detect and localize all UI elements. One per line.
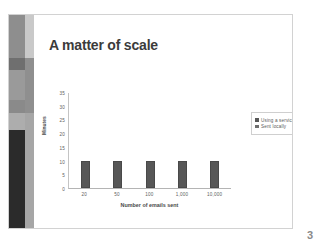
legend-swatch-icon xyxy=(255,118,259,122)
bar-slot xyxy=(134,93,166,188)
presentation-slide: A matter of scale Minutes 05101520253035… xyxy=(8,14,293,229)
band-segment xyxy=(9,130,25,228)
chart-legend: Using a serviceSent locally xyxy=(251,112,293,135)
legend-label: Sent locally xyxy=(261,124,286,129)
x-axis-tick-label: 1,000 xyxy=(166,192,199,197)
x-axis-tick-labels: 20501001,00010,000 xyxy=(68,192,231,197)
bar-slot xyxy=(199,93,231,188)
page-number: 3 xyxy=(307,229,313,241)
y-axis-tick-label: 30 xyxy=(59,104,65,109)
y-axis-tick-label: 20 xyxy=(59,132,65,137)
bar[interactable] xyxy=(178,161,187,188)
rail-segment xyxy=(25,113,34,228)
band-segment xyxy=(9,58,25,71)
legend-swatch-icon xyxy=(255,125,259,129)
decorative-left-band xyxy=(9,15,34,228)
bar[interactable] xyxy=(113,161,122,188)
legend-item[interactable]: Sent locally xyxy=(255,124,293,129)
y-axis-tick-labels: 05101520253035 xyxy=(49,93,65,189)
x-axis-title: Number of emails sent xyxy=(68,202,231,208)
bar[interactable] xyxy=(146,161,155,188)
bar-chart: Minutes 05101520253035 20501001,00010,00… xyxy=(41,93,286,221)
bar-slot xyxy=(166,93,198,188)
band-photo-strip xyxy=(9,15,25,228)
band-rail-strip xyxy=(25,15,34,228)
x-axis-tick-label: 20 xyxy=(68,192,101,197)
band-segment xyxy=(9,113,25,130)
x-axis-tick-label: 100 xyxy=(133,192,166,197)
y-axis-tick-label: 0 xyxy=(62,187,65,192)
plot-area-wrapper: Minutes 05101520253035 20501001,00010,00… xyxy=(41,93,231,205)
bar-group xyxy=(69,93,231,188)
bar[interactable] xyxy=(81,161,90,188)
bar[interactable] xyxy=(210,161,219,188)
y-axis-tick-label: 25 xyxy=(59,118,65,123)
x-axis-tick-label: 10,000 xyxy=(198,192,231,197)
bar-slot xyxy=(101,93,133,188)
bar-slot xyxy=(69,93,101,188)
legend-item[interactable]: Using a service xyxy=(255,118,293,123)
y-axis-tick-label: 5 xyxy=(62,173,65,178)
y-axis-tick-label: 10 xyxy=(59,159,65,164)
band-segment xyxy=(9,100,25,113)
band-segment xyxy=(9,15,25,58)
band-segment xyxy=(9,70,25,100)
page-title: A matter of scale xyxy=(49,37,158,53)
plot-area xyxy=(68,93,231,189)
y-axis-tick-label: 35 xyxy=(59,91,65,96)
y-axis-tick-label: 15 xyxy=(59,145,65,150)
x-axis-tick-label: 50 xyxy=(101,192,134,197)
y-axis-title: Minutes xyxy=(41,125,47,135)
rail-segment xyxy=(25,58,34,113)
rail-segment xyxy=(25,15,34,58)
legend-label: Using a service xyxy=(261,118,293,123)
